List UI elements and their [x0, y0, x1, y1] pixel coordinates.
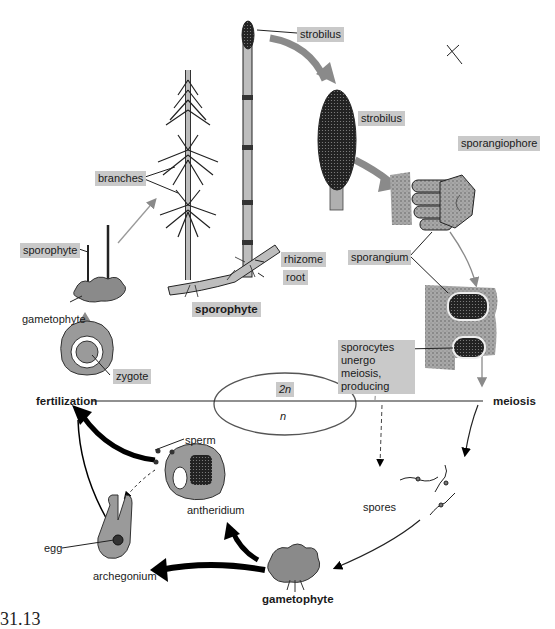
label-strobilus-top: strobilus	[297, 27, 344, 42]
label-rhizome: rhizome	[281, 252, 326, 267]
spores-illustration	[400, 465, 455, 515]
label-sperm: sperm	[185, 434, 216, 447]
label-sporangium: sporangium	[348, 250, 411, 265]
label-diploid: 2n	[276, 382, 294, 397]
label-zygote: zygote	[113, 369, 151, 384]
zygote-archegonium	[61, 321, 114, 375]
enlarged-strobilus	[318, 90, 356, 210]
young-plant	[74, 225, 126, 302]
label-antheridium: antheridium	[187, 504, 244, 517]
antheridium-illustration	[154, 444, 226, 500]
label-spores: spores	[363, 501, 396, 514]
figure-number: 31.13	[0, 609, 41, 629]
label-young-gametophyte: gametophyte	[22, 313, 86, 326]
label-egg: egg	[44, 542, 62, 555]
sporangium-section	[425, 285, 498, 370]
label-root: root	[283, 270, 308, 285]
label-haploid: n	[280, 410, 286, 423]
label-sporocytes: sporocytes unergo meiosis, producing	[338, 340, 415, 394]
label-gametophyte-mature: gametophyte	[262, 593, 334, 606]
label-young-sporophyte: sporophyte	[20, 243, 80, 258]
rhizome	[168, 245, 280, 297]
label-meiosis: meiosis	[493, 395, 536, 408]
sporangiophore-illustration	[390, 172, 475, 230]
label-fertilization: fertilization	[36, 395, 97, 408]
label-strobilus-enlarged: strobilus	[358, 111, 405, 126]
fertile-stem	[242, 21, 254, 277]
label-sporophyte-mature: sporophyte	[192, 302, 261, 317]
label-sporangiophore: sporangiophore	[458, 136, 540, 151]
mature-gametophyte	[268, 544, 320, 592]
label-branches: branches	[95, 171, 146, 186]
archegonium-illustration	[98, 495, 132, 558]
vegetative-stem	[158, 70, 218, 280]
label-archegonium: archegonium	[93, 570, 157, 583]
